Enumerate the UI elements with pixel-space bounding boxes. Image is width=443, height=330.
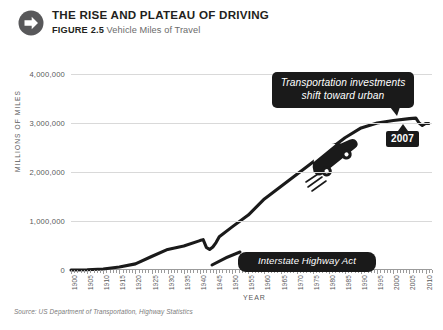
x-axis-tick-mark bbox=[419, 270, 420, 273]
x-axis-tick-label: 1985 bbox=[345, 275, 352, 290]
x-axis-tick-label: 1995 bbox=[377, 275, 384, 290]
x-axis-tick-mark bbox=[413, 270, 414, 273]
x-axis-tick-mark bbox=[426, 270, 427, 274]
x-axis-tick-label: 1975 bbox=[313, 275, 320, 290]
y-axis-tick-label: 3,000,000 bbox=[29, 119, 65, 128]
x-axis-tick-mark bbox=[232, 270, 233, 274]
x-axis-tick-mark bbox=[148, 270, 149, 273]
x-axis-tick-mark bbox=[71, 270, 72, 274]
x-axis-tick-label: 1900 bbox=[71, 275, 78, 290]
x-axis-tick-mark bbox=[132, 270, 133, 273]
x-axis-tick-mark bbox=[142, 270, 143, 273]
x-axis-tick-mark bbox=[210, 270, 211, 273]
x-axis-tick-mark bbox=[397, 270, 398, 273]
y-axis-tick-label: 1,000,000 bbox=[29, 217, 65, 226]
x-axis-tick-mark bbox=[161, 270, 162, 273]
x-axis-tick-mark bbox=[158, 270, 159, 273]
x-axis-tick-mark bbox=[119, 270, 120, 274]
x-axis-tick-mark bbox=[222, 270, 223, 273]
x-axis-tick-mark bbox=[406, 270, 407, 273]
x-axis-tick-mark bbox=[387, 270, 388, 273]
x-axis-tick-mark bbox=[216, 270, 217, 274]
x-axis-tick-mark bbox=[94, 270, 95, 273]
x-axis-tick-mark bbox=[145, 270, 146, 273]
annotation-urban-investment-line1: Transportation investments bbox=[276, 77, 410, 90]
car-illustration bbox=[303, 128, 365, 194]
x-axis-tick-label: 1910 bbox=[103, 275, 110, 290]
year-badge-tail bbox=[398, 124, 408, 131]
x-axis-tick-mark bbox=[206, 270, 207, 273]
x-axis-tick-mark bbox=[181, 270, 182, 273]
y-axis-tick-label: 2,000,000 bbox=[29, 168, 65, 177]
x-axis-tick-label: 1955 bbox=[248, 275, 255, 290]
x-axis-tick-label: 1965 bbox=[281, 275, 288, 290]
x-axis-tick-mark bbox=[193, 270, 194, 273]
x-axis-tick-mark bbox=[81, 270, 82, 273]
x-axis-tick-mark bbox=[168, 270, 169, 274]
x-axis-tick-mark bbox=[97, 270, 98, 273]
x-axis-tick-mark bbox=[74, 270, 75, 273]
gridline bbox=[71, 221, 432, 222]
x-axis-tick-mark bbox=[135, 270, 136, 274]
x-axis-tick-mark bbox=[229, 270, 230, 273]
x-axis-tick-label: 2010 bbox=[426, 275, 433, 290]
source-note: Source: US Department of Transportation,… bbox=[14, 308, 193, 315]
x-axis-tick-mark bbox=[403, 270, 404, 273]
x-axis-tick-mark bbox=[380, 270, 381, 273]
x-axis-tick-mark bbox=[384, 270, 385, 273]
x-axis-tick-mark bbox=[171, 270, 172, 273]
x-axis-tick-label: 1920 bbox=[135, 275, 142, 290]
x-axis-tick-mark bbox=[106, 270, 107, 273]
x-axis-tick-mark bbox=[110, 270, 111, 273]
peak-year-text: 2007 bbox=[391, 133, 414, 144]
x-axis-tick-mark bbox=[203, 270, 204, 273]
x-axis-tick-label: 2005 bbox=[409, 275, 416, 290]
x-axis-tick-label: 2000 bbox=[393, 275, 400, 290]
x-axis-tick-label: 1940 bbox=[200, 275, 207, 290]
x-axis-tick-label: 1905 bbox=[87, 275, 94, 290]
x-axis-tick-label: 1915 bbox=[119, 275, 126, 290]
interstate-callout-pointer bbox=[210, 243, 250, 267]
x-axis-tick-label: 1950 bbox=[232, 275, 239, 290]
x-axis-tick-label: 1960 bbox=[264, 275, 271, 290]
x-axis-tick-label: 1980 bbox=[329, 275, 336, 290]
y-axis-title: MILLIONS OF MILES bbox=[14, 90, 21, 172]
x-axis-tick-mark bbox=[152, 270, 153, 274]
x-axis-tick-mark bbox=[116, 270, 117, 273]
x-axis-tick-mark bbox=[390, 270, 391, 273]
x-axis-tick-mark bbox=[374, 270, 375, 273]
x-axis-tick-mark bbox=[219, 270, 220, 273]
gridline bbox=[71, 172, 432, 173]
annotation-peak-year-badge: 2007 bbox=[386, 131, 419, 147]
callout-tail bbox=[390, 107, 400, 116]
x-axis-tick-mark bbox=[416, 270, 417, 273]
x-axis-tick-label: 1925 bbox=[152, 275, 159, 290]
chart-container: MILLIONS OF MILES bbox=[0, 0, 443, 330]
x-axis-tick-mark bbox=[123, 270, 124, 273]
x-axis-tick-mark bbox=[126, 270, 127, 273]
x-axis-tick-mark bbox=[432, 270, 433, 273]
x-axis-tick-mark bbox=[197, 270, 198, 273]
x-axis-tick-label: 1935 bbox=[184, 275, 191, 290]
x-axis-title: YEAR bbox=[243, 294, 266, 301]
x-axis-tick-mark bbox=[155, 270, 156, 273]
gridline bbox=[71, 123, 432, 124]
x-axis-tick-mark bbox=[200, 270, 201, 274]
x-axis-tick-mark bbox=[87, 270, 88, 274]
x-axis-tick-mark bbox=[174, 270, 175, 273]
x-axis-tick-mark bbox=[139, 270, 140, 273]
x-axis-tick-label: 1970 bbox=[297, 275, 304, 290]
y-axis-tick-label: 0 bbox=[61, 266, 65, 275]
x-axis-tick-mark bbox=[226, 270, 227, 273]
x-axis-tick-mark bbox=[77, 270, 78, 273]
x-axis-tick-mark bbox=[184, 270, 185, 274]
annotation-urban-investment: Transportation investments shift toward … bbox=[272, 72, 414, 108]
x-axis-tick-mark bbox=[190, 270, 191, 273]
x-axis-tick-mark bbox=[100, 270, 101, 273]
x-axis-tick-label: 1945 bbox=[216, 275, 223, 290]
x-axis-tick-mark bbox=[213, 270, 214, 273]
x-axis-tick-mark bbox=[409, 270, 410, 274]
x-axis-tick-mark bbox=[400, 270, 401, 273]
x-axis-tick-mark bbox=[429, 270, 430, 273]
x-axis-tick-mark bbox=[103, 270, 104, 274]
